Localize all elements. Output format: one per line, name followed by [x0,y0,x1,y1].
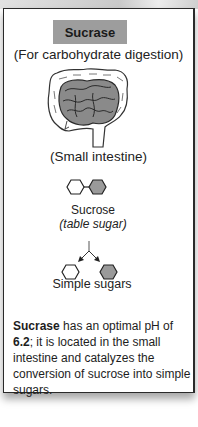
substrate-sublabel: (table sugar) [4,217,182,231]
enzyme-title: Sucrase [53,20,127,44]
description-text-1: has an optimal pH of [60,319,173,333]
small-intestine-icon [45,65,131,149]
description-ph: 6.2 [13,335,30,349]
enzyme-description: Sucrase has an optimal pH of 6.2; it is … [13,318,193,398]
sucrose-hexagons-icon [67,180,106,194]
organ-label: (Small intestine) [4,149,193,164]
description-text-2: ; it is located in the small intestine a… [13,335,190,397]
enzyme-subtitle: (For carbohydrate digestion) [4,47,193,62]
substrate-label: Sucrose [4,203,182,217]
product-label: Simple sugars [4,277,180,291]
enzyme-card: Sucrase (For carbohydrate digestion) (Sm… [3,8,195,393]
split-arrow-icon [78,241,100,262]
description-enzyme: Sucrase [13,319,60,333]
